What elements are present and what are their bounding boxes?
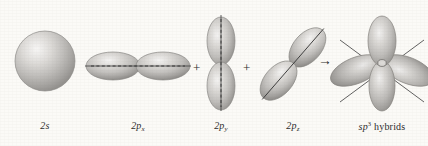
orbital-2px-graphic: [85, 44, 191, 88]
orbital-2py-graphic: [199, 15, 243, 111]
orbital-sp3-hybrids: [338, 14, 426, 110]
orbital-2s: [12, 28, 78, 94]
orbital-hybridization-figure: 2s +: [0, 0, 428, 146]
orbital-2pz-label-subscript: z: [297, 125, 300, 133]
orbital-2s-label-letter: s: [46, 120, 50, 131]
orbital-sp3-label-suffix: hybrids: [374, 121, 405, 132]
orbital-sp3-graphic: [338, 14, 426, 110]
orbital-sp3-label-prefix: sp: [359, 121, 368, 132]
orbital-2py-label: 2py: [193, 120, 249, 133]
orbital-sp3-label: sp3 hybrids: [336, 120, 428, 132]
orbital-2px-label-subscript: x: [142, 125, 145, 133]
orbital-2s-graphic: [12, 28, 78, 94]
orbital-2py: [199, 15, 243, 111]
orbital-2px: [85, 44, 191, 88]
orbital-2pz-label: 2pz: [258, 120, 328, 133]
orbital-2py-label-subscript: y: [225, 125, 228, 133]
orbital-2px-label: 2px: [85, 120, 191, 133]
yields-arrow: →: [318, 54, 332, 68]
plus-operator-2: +: [243, 61, 250, 74]
orbital-2s-label: 2s: [12, 120, 78, 131]
